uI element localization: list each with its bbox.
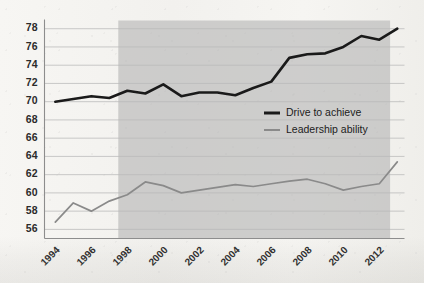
x-tick-label: 1994 (38, 244, 62, 268)
x-tick-label: 1998 (110, 244, 134, 268)
y-tick-label: 58 (26, 204, 38, 216)
y-tick-label: 70 (26, 94, 38, 106)
y-tick-label: 68 (26, 113, 38, 125)
x-tick-label: 2000 (146, 244, 170, 268)
y-tick-label: 74 (26, 58, 38, 70)
y-tick-label: 64 (26, 149, 38, 161)
x-tick-label: 2002 (182, 244, 206, 268)
legend-label-0: Drive to achieve (286, 106, 361, 118)
y-tick-label: 76 (26, 40, 38, 52)
x-tick-label: 2012 (362, 244, 386, 268)
x-tick-label: 2010 (326, 244, 350, 268)
x-axis-tick-labels: 1994199619982000200220042006200820102012 (38, 244, 386, 268)
y-tick-label: 66 (26, 131, 38, 143)
y-tick-label: 72 (26, 76, 38, 88)
y-tick-label: 60 (26, 186, 38, 198)
x-tick-label: 2006 (254, 244, 278, 268)
chart-canvas: 565860626466687072747678 199419961998200… (0, 0, 424, 283)
x-tick-label: 1996 (74, 244, 98, 268)
line-chart: 565860626466687072747678 199419961998200… (0, 0, 424, 283)
y-tick-label: 56 (26, 222, 38, 234)
legend-label-1: Leadership ability (286, 123, 368, 135)
x-tick-label: 2008 (290, 244, 314, 268)
x-tick-label: 2004 (218, 244, 242, 268)
y-tick-label: 62 (26, 167, 38, 179)
y-tick-label: 78 (26, 21, 38, 33)
y-axis-tick-labels: 565860626466687072747678 (26, 21, 38, 234)
